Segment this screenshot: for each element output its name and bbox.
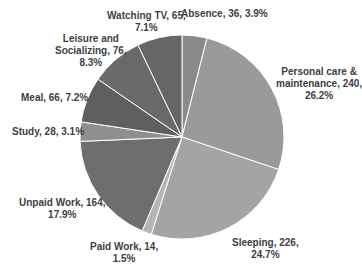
label-line: 17.9%: [19, 209, 106, 221]
label-line: Meal, 66, 7.2%: [21, 92, 88, 104]
label-line: Study, 28, 3.1%: [12, 126, 84, 138]
label-unpaid-work: Unpaid Work, 164, 17.9%: [19, 197, 106, 221]
label-line: Sleeping, 226,: [232, 237, 299, 249]
label-line: 24.7%: [232, 249, 299, 261]
label-line: Unpaid Work, 164,: [19, 197, 106, 209]
label-line: Personal care &: [276, 66, 362, 78]
label-study: Study, 28, 3.1%: [12, 126, 84, 138]
label-personal-care: Personal care & maintenance, 240, 26.2%: [276, 66, 362, 102]
label-line: 1.5%: [90, 253, 158, 265]
label-sleeping: Sleeping, 226, 24.7%: [232, 237, 299, 261]
label-line: Leisure and: [55, 33, 127, 45]
label-line: 7.1%: [107, 22, 186, 34]
label-paid-work: Paid Work, 14, 1.5%: [90, 241, 158, 265]
label-line: 8.3%: [55, 57, 127, 69]
label-absence: Absence, 36, 3.9%: [181, 8, 268, 20]
label-line: Socializing, 76,: [55, 45, 127, 57]
label-line: 26.2%: [276, 90, 362, 102]
label-meal: Meal, 66, 7.2%: [21, 92, 88, 104]
label-line: Absence, 36, 3.9%: [181, 8, 268, 20]
label-leisure: Leisure and Socializing, 76, 8.3%: [55, 33, 127, 69]
label-watching-tv: Watching TV, 65, 7.1%: [107, 10, 186, 34]
label-line: maintenance, 240,: [276, 78, 362, 90]
label-line: Watching TV, 65,: [107, 10, 186, 22]
label-line: Paid Work, 14,: [90, 241, 158, 253]
